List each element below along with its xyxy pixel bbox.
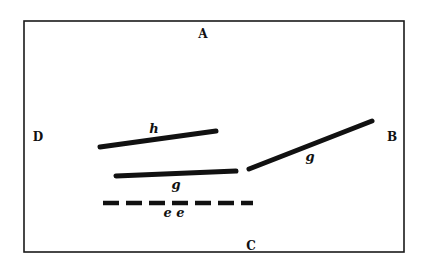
label-g-slanted: g [305, 149, 314, 164]
label-b-right: B [387, 130, 397, 144]
label-e-e: e e [163, 205, 184, 220]
diagram-figure: A B C D h g g e e [0, 0, 424, 269]
label-c-bottom: C [246, 239, 256, 253]
segment-g-horizontal [116, 171, 236, 176]
label-a-top: A [197, 27, 208, 41]
frame-rectangle [24, 21, 404, 252]
label-g-horizontal: g [171, 177, 180, 192]
label-h: h [149, 121, 158, 136]
label-d-left: D [33, 130, 43, 144]
